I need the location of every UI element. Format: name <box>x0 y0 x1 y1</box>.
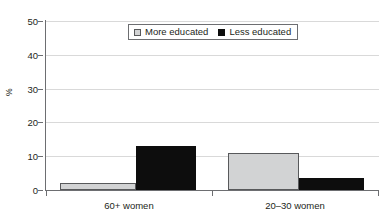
y-tick-label-0: 0 <box>20 186 38 196</box>
bar-60plus-less-educated <box>136 146 196 190</box>
gridline-50 <box>46 21 379 22</box>
y-tick-mark-40 <box>38 55 43 56</box>
y-axis-ticks: 50 40 30 20 10 0 <box>18 0 38 224</box>
gridline-30 <box>46 89 379 90</box>
x-category-label-60plus: 60+ women <box>46 200 212 211</box>
bar-chart: % 50 40 30 20 10 0 60+ women 20–30 w <box>0 0 391 224</box>
y-tick-label-50: 50 <box>20 17 38 27</box>
y-tick-label-40: 40 <box>20 51 38 61</box>
bar-20-30-more-educated <box>228 153 299 190</box>
y-tick-mark-20 <box>38 122 43 123</box>
bar-60plus-more-educated <box>60 183 136 190</box>
legend-label-more-educated: More educated <box>145 27 208 37</box>
legend: More educated Less educated <box>128 24 298 40</box>
y-tick-label-10: 10 <box>20 152 38 162</box>
x-tick-mark-start <box>46 191 47 196</box>
y-tick-mark-10 <box>38 156 43 157</box>
gridline-40 <box>46 55 379 56</box>
plot-area <box>46 21 379 190</box>
legend-swatch-less-educated <box>218 29 225 36</box>
y-tick-mark-30 <box>38 89 43 90</box>
y-tick-mark-0 <box>38 190 43 191</box>
legend-swatch-more-educated <box>134 29 141 36</box>
legend-entry-less-educated[interactable]: Less educated <box>218 27 291 37</box>
x-tick-mark-end <box>378 191 379 196</box>
x-category-label-20-30: 20–30 women <box>212 200 378 211</box>
legend-entry-more-educated[interactable]: More educated <box>134 27 208 37</box>
y-tick-mark-50 <box>38 21 43 22</box>
y-tick-label-30: 30 <box>20 85 38 95</box>
y-axis-label: % <box>4 88 14 96</box>
gridline-10 <box>46 156 379 157</box>
gridline-20 <box>46 122 379 123</box>
y-tick-label-20: 20 <box>20 118 38 128</box>
legend-label-less-educated: Less educated <box>229 27 291 37</box>
bar-20-30-less-educated <box>299 178 364 190</box>
x-tick-mark-middle <box>212 191 213 196</box>
